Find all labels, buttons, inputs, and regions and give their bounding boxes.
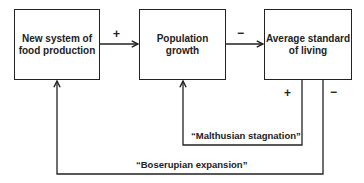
malthusian-stagnation-label: “Malthusian stagnation”: [191, 130, 301, 141]
sign-food-to-population: +: [113, 28, 120, 40]
node-label-line: of living: [266, 45, 350, 57]
node-label-line: food production: [19, 45, 96, 57]
sign-population-to-living: −: [237, 27, 244, 39]
node-label-line: New system of: [19, 33, 96, 45]
node-population-growth: Population growth: [139, 9, 226, 80]
boserupian-expansion-label: “Boserupian expansion”: [136, 159, 247, 170]
node-label-line: Population: [157, 33, 209, 45]
sign-malthusian: +: [284, 87, 291, 99]
node-label-line: Average standard: [266, 33, 350, 45]
node-average-standard-of-living: Average standard of living: [264, 9, 352, 80]
node-new-food-system: New system of food production: [14, 9, 100, 80]
sign-boserupian: −: [330, 86, 337, 98]
node-label-line: growth: [157, 45, 209, 57]
causal-loop-diagram: New system of food production Population…: [0, 0, 364, 183]
